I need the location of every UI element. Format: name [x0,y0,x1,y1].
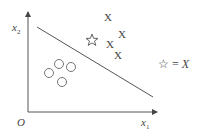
legend-class-label: X [182,57,189,71]
x-point: X [118,29,126,40]
x-point: X [104,12,112,23]
circle-point [67,63,76,72]
legend-equals: = [172,57,182,71]
circle-points [45,60,76,87]
x-axis-label: x1 [141,117,149,131]
circle-point [45,69,54,78]
origin-label: O [17,117,25,128]
x-point: X [114,50,122,61]
legend-star-icon: ☆ [158,57,169,71]
star-icon [86,34,98,45]
decision-boundary-line [37,27,153,97]
x-point: X [106,39,114,50]
legend: ☆ = X [158,57,189,72]
circle-point [55,60,64,69]
y-axis-label: x2 [12,22,20,36]
circle-point [58,78,67,87]
